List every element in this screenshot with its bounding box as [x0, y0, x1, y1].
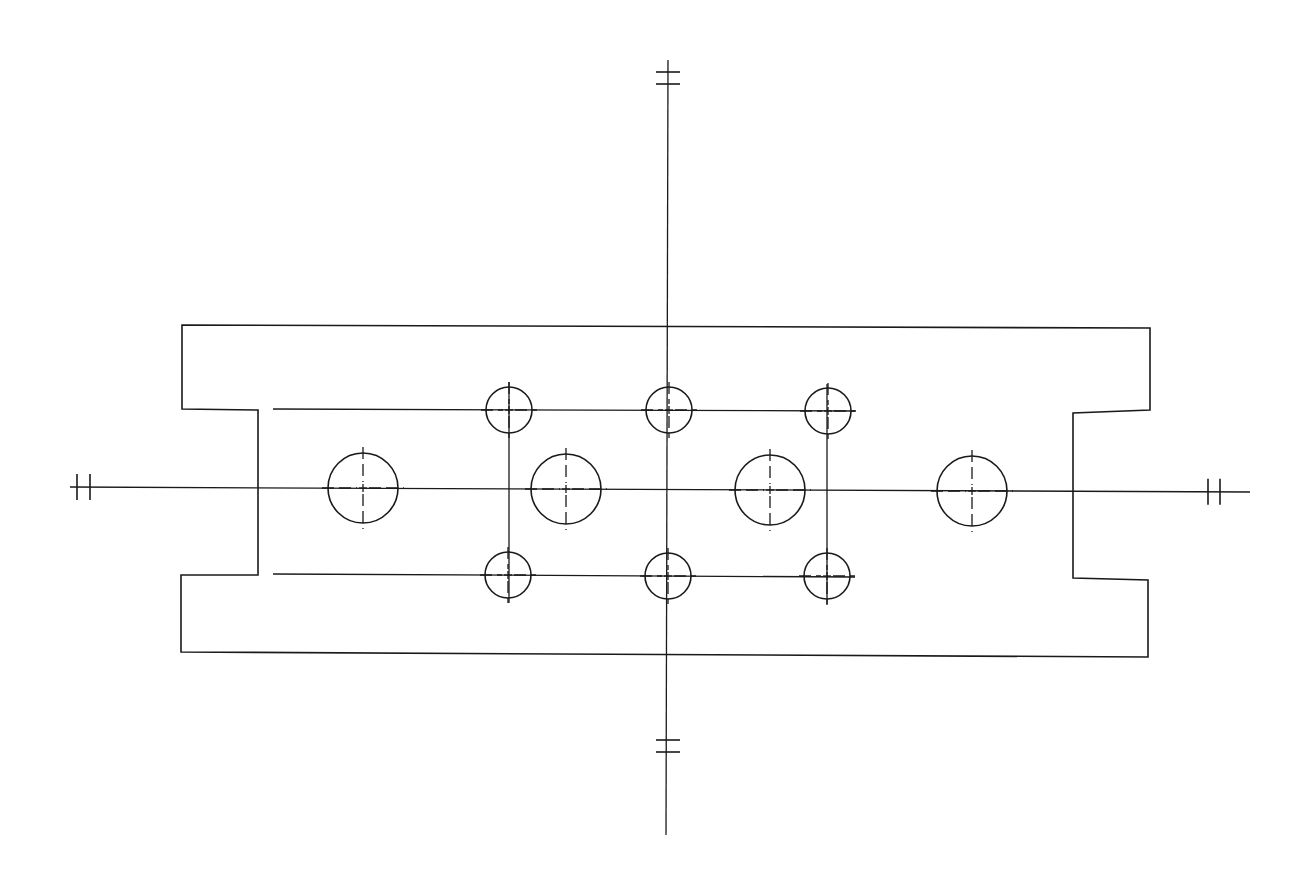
break-marks [77, 72, 1220, 752]
drawing-canvas [0, 0, 1312, 882]
center-line-bolt-row-bottom [273, 574, 855, 577]
center-line-vertical-main [666, 60, 668, 835]
plate-drawing [0, 0, 1312, 882]
small-holes [480, 382, 856, 604]
center-line-bolt-row-top [273, 409, 855, 411]
